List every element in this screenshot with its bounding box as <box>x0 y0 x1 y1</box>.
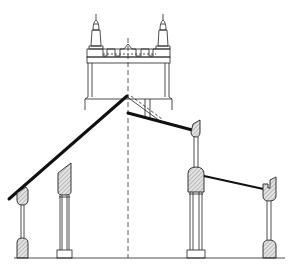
right-arcade-pier <box>187 167 205 258</box>
nave-gutter <box>191 120 200 168</box>
left-outer-wall <box>17 187 28 258</box>
pinnacle-right <box>156 14 170 49</box>
nave-roof-right <box>128 113 196 131</box>
tower <box>85 14 172 120</box>
pinnacle-left <box>89 14 103 49</box>
right-outer-wall <box>263 177 276 258</box>
section-svg <box>0 0 290 267</box>
left-arcade-pier <box>57 163 72 258</box>
section-drawing: Church cross-section with west tower, na… <box>0 0 290 267</box>
aisle-roof-right <box>204 176 268 190</box>
